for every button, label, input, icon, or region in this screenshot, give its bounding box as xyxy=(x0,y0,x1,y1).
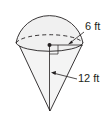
radius-label: 6 ft xyxy=(85,21,100,32)
height-label: 12 ft xyxy=(78,73,99,84)
hemisphere-cone-diagram xyxy=(0,0,112,117)
